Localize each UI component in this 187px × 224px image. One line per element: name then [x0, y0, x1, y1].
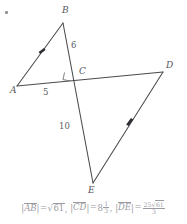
overline-de: DE — [118, 202, 131, 212]
segment-de — [93, 72, 163, 183]
equals-ab: = — [39, 204, 47, 213]
equals-de: = — [134, 203, 142, 212]
answer-term-de: |DE|=25√613 — [115, 200, 166, 216]
overline-ab: AB — [24, 203, 36, 213]
fraction-denominator-cd: 3 — [103, 208, 109, 215]
vertex-label-b: B — [62, 6, 69, 15]
radicand-de: 61 — [155, 200, 164, 208]
vertex-label-d: D — [166, 61, 173, 70]
equals-cd: = — [89, 203, 97, 212]
fraction-de: 25√613 — [143, 200, 166, 216]
radicand-ab: 61 — [53, 203, 65, 213]
fraction-denominator-de: 3 — [143, 209, 166, 216]
measure-ce: 10 — [59, 122, 70, 131]
segment-be — [63, 23, 93, 183]
overline-cd: CD — [73, 202, 86, 212]
right-angle-marker-c — [63, 73, 70, 81]
mixed-integer-cd: 8 — [97, 204, 102, 213]
fraction-cd: 13 — [103, 201, 109, 215]
measure-ac: 5 — [43, 88, 48, 97]
answer-term-cd: |CD|=813, — [70, 201, 112, 215]
answer-term-ab: |AB|=√61, — [21, 203, 67, 213]
measure-bc: 6 — [71, 41, 76, 50]
vertex-label-a: A — [10, 86, 17, 95]
arrow-marker-ab — [39, 48, 46, 54]
comma-1: , — [65, 203, 68, 213]
geometry-figure: A B C D E 6 5 10 |AB|=√61, |CD|=813, |DE… — [0, 0, 187, 224]
segment-ad — [17, 72, 163, 86]
vertex-label-c: C — [79, 67, 86, 76]
segment-ab — [17, 23, 63, 86]
comma-2: , — [110, 202, 113, 212]
vertex-label-e: E — [88, 186, 95, 195]
answer-caption: |AB|=√61, |CD|=813, |DE|=25√613 — [0, 200, 187, 216]
numerator-coefficient-de: 25 — [144, 201, 152, 208]
